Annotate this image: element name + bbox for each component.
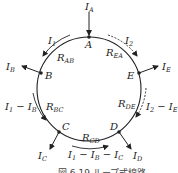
current-ic-label: IC xyxy=(37,150,47,163)
current-id-label: ID xyxy=(132,150,143,163)
ic-arrow-icon xyxy=(50,132,59,149)
node-a-label: A xyxy=(84,39,92,50)
node-c-label: C xyxy=(62,121,70,132)
loop-line xyxy=(37,37,141,141)
ib-arrow-icon xyxy=(22,66,41,73)
branch-current-i1-label: I1 xyxy=(47,35,56,48)
node-e-label: E xyxy=(126,70,135,81)
node-b-label: B xyxy=(44,70,52,81)
current-ia-label: IA xyxy=(84,1,94,14)
resistance-bc-label: RBC xyxy=(45,101,63,114)
node-d-label: D xyxy=(109,121,118,132)
resistance-ab-label: RAB xyxy=(56,52,74,65)
current-ie-label: IE xyxy=(161,61,171,74)
branch-current-cd-label: I1 − IB − IC xyxy=(67,149,123,162)
resistance-de-label: RDE xyxy=(117,98,136,111)
loop-circuit-diagram: A B E C D IA IB IE IC ID RAB REA RBC RDE… xyxy=(0,0,178,173)
branch-current-bc-label: I1 − IB xyxy=(4,101,37,114)
figure-caption: 図 6.19 ループ式線路 xyxy=(58,167,146,173)
resistance-cd-label: RCD xyxy=(81,132,101,145)
resistance-ea-label: REA xyxy=(105,47,123,60)
ie-arrow-icon xyxy=(139,66,158,73)
branch-current-i2-label: I2 xyxy=(124,35,133,48)
current-ib-label: IB xyxy=(5,61,15,74)
branch-current-de-label: I2 − IE xyxy=(145,101,178,114)
id-arrow-icon xyxy=(119,132,131,149)
